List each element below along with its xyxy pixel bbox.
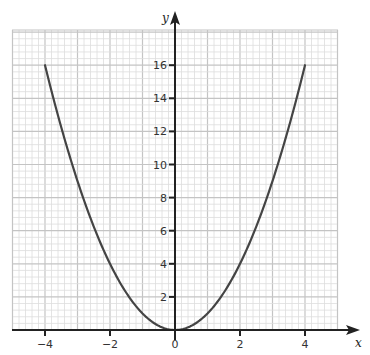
x-tick-label: 0: [172, 338, 179, 351]
x-axis-label: x: [355, 336, 362, 350]
x-axis-ticks: −4−2024: [37, 330, 309, 351]
y-tick-label: 16: [153, 59, 167, 72]
y-tick-label: 6: [160, 225, 167, 238]
y-tick-label: 4: [160, 258, 167, 271]
x-tick-label: −4: [37, 338, 53, 351]
x-tick-label: 4: [302, 338, 309, 351]
x-tick-label: 2: [237, 338, 244, 351]
x-tick-label: −2: [102, 338, 118, 351]
y-axis-ticks: 246810121416: [153, 59, 175, 304]
y-tick-label: 14: [153, 92, 167, 105]
y-axis-label: y: [161, 11, 169, 25]
y-tick-label: 10: [153, 159, 167, 172]
parabola-chart: −4−2024 246810121416 x y: [0, 0, 370, 355]
y-tick-label: 12: [153, 125, 167, 138]
y-tick-label: 2: [160, 291, 167, 304]
y-tick-label: 8: [160, 192, 167, 205]
